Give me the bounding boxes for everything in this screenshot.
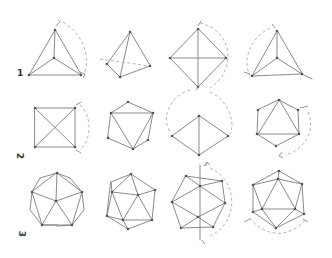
octahedron-view-4 [166, 86, 232, 166]
polyhedra-sketch [0, 0, 332, 258]
tetrahedron-view-3 [244, 24, 312, 79]
octahedron-view-2 [34, 102, 89, 153]
icosahedron-view-4 [244, 170, 308, 234]
icosahedron-view-2 [106, 173, 157, 231]
octahedron-view-1 [169, 21, 228, 88]
octahedron-view-3 [107, 101, 155, 151]
tetrahedron-view-2 [100, 31, 151, 79]
octahedron-view-5 [256, 99, 311, 158]
tetrahedron-view-1 [28, 20, 87, 78]
icosahedron-view-1 [30, 172, 84, 227]
icosahedron-view-3 [171, 162, 232, 244]
